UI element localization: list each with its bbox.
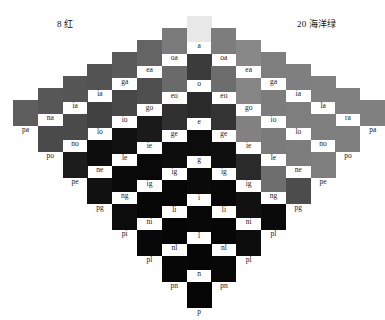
color-swatch-cell[interactable]: ne	[87, 140, 112, 166]
color-swatch-cell[interactable]: ge	[211, 104, 236, 130]
color-swatch-cell[interactable]: ie	[236, 116, 261, 142]
color-swatch-cell[interactable]: ra	[335, 88, 360, 114]
color-swatch-cell[interactable]: lo	[87, 102, 112, 128]
color-swatch-cell[interactable]: po	[335, 126, 360, 152]
color-swatch-cell[interactable]: ga	[261, 52, 286, 78]
color-swatch	[236, 116, 261, 142]
color-swatch-cell[interactable]: io	[112, 90, 137, 116]
swatch-column: oaeogeiglinlpn	[162, 28, 187, 294]
color-swatch-cell[interactable]: e	[187, 92, 212, 118]
swatch-label: pa	[360, 125, 385, 135]
color-swatch-cell[interactable]: l	[187, 206, 212, 232]
swatch-label: pe	[63, 177, 88, 187]
color-swatch	[187, 282, 212, 308]
color-swatch-cell[interactable]: n	[187, 244, 212, 270]
color-swatch-cell[interactable]: li	[211, 180, 236, 206]
color-swatch-cell[interactable]: nl	[162, 218, 187, 244]
swatch-label: ge	[162, 129, 187, 139]
color-swatch-cell[interactable]: ia	[286, 64, 311, 90]
color-swatch	[162, 180, 187, 206]
color-swatch	[236, 40, 261, 66]
color-swatch-cell[interactable]: pe	[311, 152, 336, 178]
color-swatch-cell[interactable]: a	[187, 16, 212, 42]
color-swatch-cell[interactable]: no	[63, 114, 88, 140]
swatch-label: na	[38, 113, 63, 123]
swatch-label: ga	[112, 77, 137, 87]
swatch-label: pe	[311, 177, 336, 187]
color-swatch-cell[interactable]: p	[187, 282, 212, 308]
color-swatch-cell[interactable]: le	[261, 128, 286, 154]
swatch-label: pn	[162, 281, 187, 291]
color-swatch-cell[interactable]: eo	[211, 66, 236, 92]
color-swatch-cell[interactable]: pg	[87, 178, 112, 204]
color-swatch-cell[interactable]: ia	[87, 64, 112, 90]
color-swatch-cell[interactable]: pa	[13, 100, 38, 126]
color-swatch-cell[interactable]: pl	[261, 204, 286, 230]
color-swatch	[112, 90, 137, 116]
color-swatch-cell[interactable]: ea	[137, 40, 162, 66]
color-swatch-cell[interactable]: na	[38, 88, 63, 114]
color-swatch-cell[interactable]: pn	[211, 256, 236, 282]
color-swatch-cell[interactable]: ea	[236, 40, 261, 66]
swatch-column: gaiolengpl	[261, 52, 286, 242]
color-swatch	[137, 78, 162, 104]
color-swatch-cell[interactable]: ga	[112, 52, 137, 78]
color-swatch-cell[interactable]: pe	[63, 152, 88, 178]
color-swatch-cell[interactable]: ni	[137, 192, 162, 218]
color-swatch-cell[interactable]: li	[162, 180, 187, 206]
color-swatch-cell[interactable]: oa	[211, 28, 236, 54]
color-swatch-cell[interactable]: la	[311, 76, 336, 102]
swatch-label: ng	[112, 191, 137, 201]
swatch-label: pl	[261, 229, 286, 239]
color-swatch-cell[interactable]: ia	[63, 76, 88, 102]
swatch-label: ie	[236, 141, 261, 151]
swatch-label: i	[187, 193, 212, 203]
color-swatch	[311, 76, 336, 102]
swatch-column: aoegilnp	[187, 16, 212, 320]
color-swatch-cell[interactable]: g	[187, 130, 212, 156]
color-swatch-cell[interactable]: pi	[112, 204, 137, 230]
color-swatch-cell[interactable]: pa	[360, 100, 385, 126]
swatch-label: lo	[87, 127, 112, 137]
swatch-label: no	[311, 139, 336, 149]
chart-title-left: 8 红	[57, 17, 73, 30]
color-swatch-cell[interactable]: le	[112, 128, 137, 154]
color-swatch-cell[interactable]: ne	[286, 140, 311, 166]
swatch-column: ialonepg	[286, 64, 311, 216]
color-swatch-cell[interactable]: go	[137, 78, 162, 104]
color-swatch-cell[interactable]: pl	[137, 230, 162, 256]
color-swatch-cell[interactable]: ie	[137, 116, 162, 142]
color-swatch-cell[interactable]: nl	[211, 218, 236, 244]
color-swatch-cell[interactable]: io	[261, 90, 286, 116]
color-swatch-cell[interactable]: ni	[236, 192, 261, 218]
color-swatch-cell[interactable]: lo	[286, 102, 311, 128]
color-swatch	[211, 66, 236, 92]
color-swatch-cell[interactable]: go	[236, 78, 261, 104]
color-swatch-cell[interactable]: ng	[261, 166, 286, 192]
swatch-label: po	[335, 151, 360, 161]
swatch-label: pn	[211, 281, 236, 291]
color-swatch-cell[interactable]: ig	[137, 154, 162, 180]
swatch-label: eo	[211, 91, 236, 101]
swatch-label: ne	[87, 165, 112, 175]
color-swatch-cell[interactable]: po	[38, 126, 63, 152]
swatch-label: l	[187, 231, 212, 241]
color-swatch-cell[interactable]: ig	[211, 142, 236, 168]
color-swatch-cell[interactable]: ge	[162, 104, 187, 130]
color-swatch-cell[interactable]: oa	[162, 28, 187, 54]
color-swatch-cell[interactable]: ig	[162, 142, 187, 168]
color-swatch	[137, 40, 162, 66]
color-swatch-cell[interactable]: i	[187, 168, 212, 194]
color-swatch-cell[interactable]: eo	[162, 66, 187, 92]
color-swatch-cell[interactable]: pg	[286, 178, 311, 204]
color-swatch	[360, 100, 385, 126]
color-swatch-cell[interactable]: pn	[162, 256, 187, 282]
swatch-label: li	[211, 205, 236, 215]
color-swatch-cell[interactable]: ng	[112, 166, 137, 192]
color-swatch-cell[interactable]: no	[311, 114, 336, 140]
color-swatch-cell[interactable]: o	[187, 54, 212, 80]
swatch-column: eagoieignipl	[236, 40, 261, 268]
color-swatch-cell[interactable]: pl	[236, 230, 261, 256]
color-swatch-cell[interactable]: ig	[236, 154, 261, 180]
